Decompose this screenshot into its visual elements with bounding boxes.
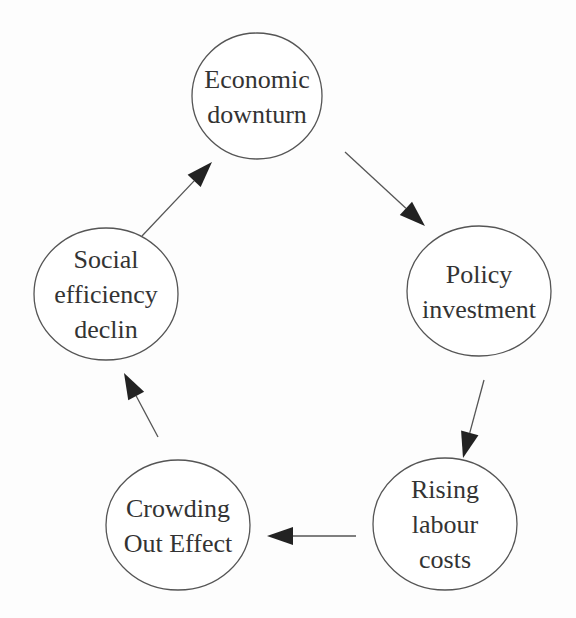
arrowhead-icon	[267, 527, 293, 545]
nodes: EconomicdownturnPolicyinvestmentRisingla…	[34, 33, 551, 590]
node-shape	[407, 226, 551, 356]
edge-line	[470, 380, 484, 433]
node-crowding: CrowdingOut Effect	[106, 460, 250, 590]
node-label: declin	[74, 315, 138, 344]
edge-social-to-economic	[142, 162, 212, 236]
edge-labour-to-crowding	[267, 527, 356, 545]
node-social: Socialefficiencydeclin	[34, 228, 178, 360]
node-label: labour	[412, 510, 479, 539]
edge-economic-to-policy	[345, 152, 425, 226]
node-label: Rising	[411, 475, 479, 504]
node-label: Economic	[204, 65, 309, 94]
node-label: investment	[422, 295, 537, 324]
edge-line	[142, 181, 194, 236]
node-label: efficiency	[54, 280, 157, 309]
edge-line	[136, 396, 158, 437]
edge-line	[345, 152, 406, 208]
edge-policy-to-labour	[461, 380, 484, 458]
node-shape	[192, 33, 322, 159]
cycle-diagram: EconomicdownturnPolicyinvestmentRisingla…	[0, 0, 576, 618]
node-policy: Policyinvestment	[407, 226, 551, 356]
node-label: Policy	[446, 260, 512, 289]
node-label: downturn	[207, 100, 307, 129]
arrowhead-icon	[461, 431, 478, 458]
edge-crowding-to-social	[124, 373, 158, 437]
arrowhead-icon	[124, 373, 144, 400]
node-label: Social	[74, 245, 139, 274]
node-labour: Risinglabourcosts	[373, 458, 517, 590]
node-economic: Economicdownturn	[192, 33, 322, 159]
node-label: costs	[419, 545, 471, 574]
node-label: Out Effect	[124, 529, 233, 558]
node-shape	[106, 460, 250, 590]
node-label: Crowding	[126, 494, 230, 523]
